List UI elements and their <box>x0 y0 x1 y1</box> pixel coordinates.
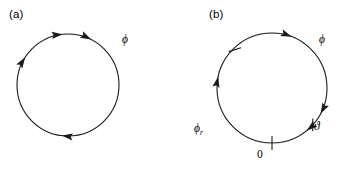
phase-circle-a <box>17 34 119 136</box>
panel-b-phi-r-label: ϕr <box>194 122 203 137</box>
tick-phi-r <box>229 43 241 56</box>
arrowhead-a-2 <box>51 31 63 39</box>
arrowhead-group-a <box>16 31 93 141</box>
panel-b-zero-label: 0 <box>257 148 263 160</box>
arrowhead-group-b <box>212 29 329 133</box>
arrowhead-b-3 <box>317 102 329 115</box>
panel-a-drawing <box>0 0 174 171</box>
arrowhead-a-1 <box>16 55 28 68</box>
panel-b-theta-label: ϑ <box>314 120 320 132</box>
panel-a: (a) ϕ <box>0 0 174 171</box>
panel-b: (b) <box>174 0 347 171</box>
figure-canvas: (a) ϕ (b) <box>0 0 347 171</box>
arrowhead-b-1 <box>280 29 293 40</box>
panel-b-phi-label: ϕ <box>319 33 325 45</box>
arrowhead-a-3 <box>80 31 93 42</box>
panel-a-phi-label: ϕ <box>122 33 128 45</box>
phi-r-subscript: r <box>200 128 203 137</box>
panel-b-drawing <box>174 0 347 171</box>
